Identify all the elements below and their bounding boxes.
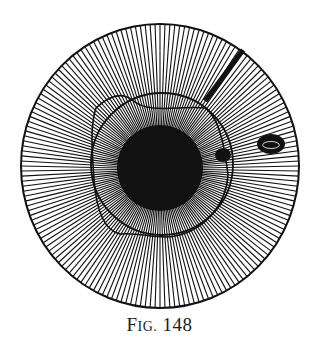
spoke (130, 27, 151, 128)
radial-cell-figure (0, 0, 319, 310)
spoke (21, 169, 119, 171)
small-granule (215, 148, 231, 162)
spoke (21, 166, 119, 168)
spoke (58, 69, 130, 140)
spoke (201, 166, 299, 168)
spoke (169, 208, 190, 305)
spoke (169, 27, 190, 128)
spoke (130, 208, 151, 305)
spoke (58, 196, 130, 263)
oval-granule (257, 134, 285, 154)
spoke (201, 169, 299, 171)
central-dark-mass (117, 125, 203, 211)
caption-ig: IG. (138, 319, 158, 334)
figure-caption: FIG. 148 (0, 314, 319, 336)
caption-f: F (126, 314, 137, 335)
spoke (62, 66, 131, 139)
caption-number: 148 (163, 314, 193, 335)
spoke (190, 196, 262, 263)
